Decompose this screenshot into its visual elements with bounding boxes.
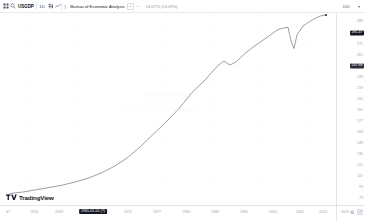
more-options-button[interactable]: ··· (134, 2, 143, 11)
time-tick: 1989 (211, 210, 219, 214)
price-tick: 79 (359, 196, 363, 200)
reset-chart-icon[interactable] (357, 209, 363, 215)
time-tick: 2007 (296, 210, 304, 214)
time-tick: 2001 (269, 210, 277, 214)
chart-plot-area[interactable]: USGDP Bureau of Economic Analysis · 1D (0, 13, 336, 205)
time-tick: 2013 (319, 210, 327, 214)
interval-selector[interactable]: 1D (37, 2, 47, 11)
price-tick: 177 (357, 119, 363, 123)
tradingview-logo-text: TradingView (19, 194, 54, 201)
time-tick: 1971 (124, 210, 132, 214)
toolbar-right-group: 100 ▾ (340, 2, 365, 11)
time-tick: 1977 (153, 210, 161, 214)
time-tick: 47 (6, 210, 10, 214)
price-tick: 121 (357, 163, 363, 167)
time-tick: 1953 (30, 210, 38, 214)
indicator-icon[interactable] (54, 3, 61, 10)
price-tick: 275 (357, 42, 363, 46)
price-tick: 289 (357, 19, 363, 23)
price-tick: 219 (357, 86, 363, 90)
price-tick: 93 (359, 185, 363, 189)
price-tick: 149 (357, 141, 363, 145)
tradingview-logo[interactable]: TradingView (6, 194, 54, 201)
price-line-svg (0, 13, 336, 205)
time-tick: 1959 (55, 210, 63, 214)
chart-toolbar: USGDP 1D | Bureau of Economic Analysis +… (0, 0, 365, 13)
last-close-badge: 247.88 (350, 63, 364, 68)
price-tick: 233 (357, 75, 363, 79)
gdp-line-series (10, 15, 326, 194)
time-axis[interactable]: 47 1953 1959 1965-01-01 (?) 1971 1977 19… (0, 205, 365, 221)
data-source-label[interactable]: Bureau of Economic Analysis (68, 4, 126, 9)
time-axis-controls (349, 209, 363, 215)
price-axis[interactable]: 289 281.47 275 261 247.88 233 219 205 19… (336, 13, 365, 205)
price-tick: 107 (357, 174, 363, 178)
grid-lines (0, 13, 336, 205)
search-icon[interactable] (9, 3, 16, 10)
grid-menu-icon[interactable] (2, 3, 9, 10)
tradingview-logo-icon (6, 194, 17, 201)
last-price-dot (325, 14, 327, 16)
chevron-down-icon[interactable]: ▾ (355, 2, 362, 11)
candles-icon[interactable] (47, 3, 54, 10)
zoom-level-label[interactable]: 100 (340, 2, 352, 11)
time-tick: 1983 (182, 210, 190, 214)
time-tick: 1995 (240, 210, 248, 214)
crosshair-date-badge: 1965-01-01 (?) (79, 209, 107, 215)
price-tick: 163 (357, 130, 363, 134)
quote-change-label: 13.0770 (13.09%) (143, 4, 178, 9)
add-indicator-button[interactable]: + (127, 3, 134, 10)
tradingview-chart-app: USGDP 1D | Bureau of Economic Analysis +… (0, 0, 365, 221)
price-tick: 135 (357, 152, 363, 156)
zoom-out-icon[interactable] (349, 209, 355, 215)
price-tick: 205 (357, 97, 363, 101)
price-tick: 191 (357, 108, 363, 112)
current-price-badge: 281.47 (350, 30, 364, 35)
symbol-label[interactable]: USGDP (16, 4, 36, 9)
price-tick: 261 (357, 53, 363, 57)
